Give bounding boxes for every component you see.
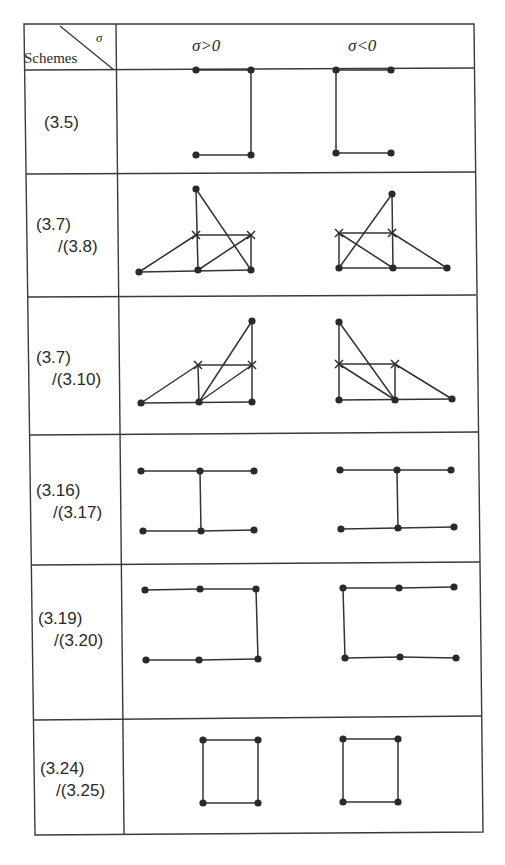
row-divider [26,172,475,174]
stencil-node-dot [394,735,401,742]
stencil-node-dot [197,527,204,534]
stencil-node-dot [196,467,203,474]
stencil-edge [198,365,199,402]
stencil-node-dot [199,736,206,743]
stencil-node-dot [394,524,401,531]
stencil-node-dot [254,736,261,743]
stencil-edge [392,194,393,268]
stencil-node-dot [247,266,254,273]
stencil-node-dot [443,264,450,271]
scheme-label-line1: (3.7) [36,214,98,236]
stencil-node-dot [448,395,455,402]
row-divider [30,432,478,435]
stencil-edge [196,189,198,270]
scheme-label: (3.19) /(3.20) [38,608,103,652]
stencil-node-dot [395,584,402,591]
scheme-label-line2: /(3.20) [38,630,103,652]
stencil-node-dot [142,656,149,663]
row-divider [34,716,482,720]
corner-row-header: Schemes [24,50,77,67]
scheme-label-line1: (3.16) [36,480,102,502]
row-divider [28,295,476,297]
stencil-edge [196,189,251,270]
stencil-edge [397,470,398,528]
stencil-edge [341,528,398,529]
table-grid [24,24,483,835]
stencil-node-dot [250,526,257,533]
stencil-node-dot [341,654,348,661]
stencil-node-dot [247,151,254,158]
stencil-pos-row-6 [199,736,261,806]
stencil-node-dot [192,185,199,192]
stencil-edge [392,233,447,268]
stencil-node-dot [252,585,259,592]
stencil-pos-row-2 [135,185,255,275]
stencil-node-dot [339,735,346,742]
stencil-node-dot [195,656,202,663]
stencil-edge [395,364,452,399]
stencil-edge [339,233,393,268]
stencil-node-dot [450,583,457,590]
stencil-node-dot [447,466,454,473]
scheme-label-line2: /(3.17) [36,502,102,524]
scheme-label: (3.7) /(3.8) [36,214,98,258]
scheme-label-line2: /(3.8) [36,236,98,258]
stencil-node-dot [335,264,342,271]
stencil-node-dot [336,466,343,473]
stencil-node-dot [247,66,254,73]
column-header-sigma-positive: σ>0 [192,36,220,56]
stencil-edge [399,587,454,588]
corner-column-header: σ [96,30,102,46]
stencil-node-dot [337,525,344,532]
scheme-label-line1: (3.5) [44,113,79,132]
stencil-node-dot [192,66,199,73]
stencil-edge [339,194,392,268]
stencil-node-dot [248,398,255,405]
stencil-pos-row-5 [141,585,261,663]
column-divider [116,24,124,834]
stencil-node-dot [137,399,144,406]
stencil-node-dot [387,149,394,156]
scheme-label-line1: (3.7) [36,347,101,369]
stencil-node-dot [450,523,457,530]
stencil-node-dot [339,584,346,591]
stencil-node-dot [199,799,206,806]
stencil-edge [199,321,252,402]
stencil-node-dot [137,467,144,474]
stencil-node-dot [452,654,459,661]
stencil-neg-row-5 [339,583,459,661]
column-header-sigma-negative: σ<0 [348,36,376,56]
stencil-neg-row-3 [335,318,456,403]
stencil-node-dot [387,66,394,73]
stencil-edge [139,235,196,272]
stencil-node-dot [394,798,401,805]
row-divider [32,562,480,565]
stencil-node-dot [141,586,148,593]
stencil-edge [343,588,345,658]
stencil-pos-row-1 [192,66,254,158]
scheme-label: (3.24) /(3.25) [40,758,105,802]
stencil-pos-row-4 [137,467,257,534]
stencil-edge [400,657,456,658]
scheme-label-line1: (3.19) [38,608,103,630]
stencil-edge [201,530,254,531]
stencil-node-dot [135,268,142,275]
scheme-label: (3.16) /(3.17) [36,480,102,524]
stencil-pos-row-3 [137,317,256,406]
stencil-node-dot [396,653,403,660]
stencil-edge [198,235,251,270]
stencil-node-dot [196,585,203,592]
stencil-node-dot [250,467,257,474]
scheme-label-line2: /(3.10) [36,369,101,391]
stencil-node-dot [139,527,146,534]
stencil-neg-row-6 [339,735,401,805]
scheme-diagrams [135,66,459,806]
stencil-node-dot [388,190,395,197]
stencil-node-dot [192,151,199,158]
scheme-label: (3.7) /(3.10) [36,347,101,391]
stencil-node-dot [254,655,261,662]
scheme-label-line2: /(3.25) [40,780,105,802]
stencil-node-dot [335,318,342,325]
stencil-node-dot [391,396,398,403]
stencil-node-dot [393,466,400,473]
